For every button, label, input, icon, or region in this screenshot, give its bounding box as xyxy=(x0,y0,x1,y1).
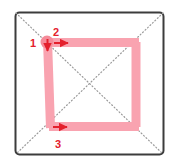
step-label-2: 2 xyxy=(53,26,59,38)
step-label-3: 3 xyxy=(55,138,61,150)
step-label-1: 1 xyxy=(30,37,36,49)
square-stroke-order-diagram: 1 2 3 xyxy=(0,0,175,167)
stroke-left-vertical xyxy=(48,40,51,128)
diagram-canvas: 1 2 3 xyxy=(0,0,175,167)
